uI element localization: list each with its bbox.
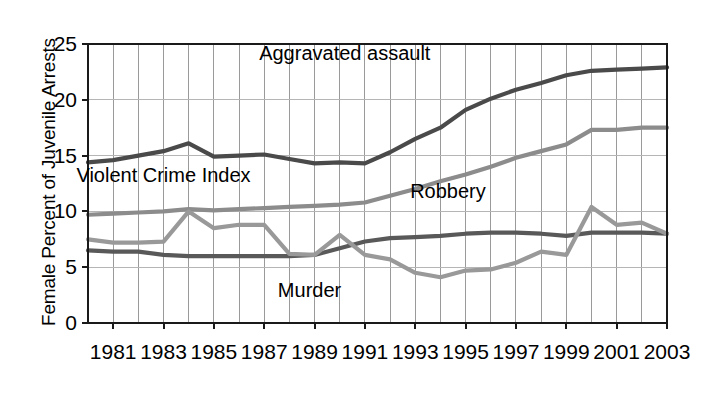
series-label-violent-crime-index: Violent Crime Index [76,164,250,186]
x-tick-label: 1983 [140,340,187,363]
x-tick-label: 1981 [90,340,137,363]
x-tick-label: 2001 [593,340,640,363]
x-tick-label: 1999 [543,340,590,363]
x-tick-label: 1991 [342,340,389,363]
x-tick-label: 1987 [241,340,288,363]
chart-figure: Female Percent of Juvenile Arrests 05101… [0,0,724,400]
x-tick-label: 1993 [392,340,439,363]
series-label-robbery: Robbery [410,180,486,202]
y-axis-title: Female Percent of Juvenile Arrests [34,32,64,332]
x-tick-label: 1989 [291,340,338,363]
line-chart-plot: 0510152025198119831985198719891991199319… [0,0,724,400]
y-tick-label: 5 [65,255,77,278]
y-tick-label: 0 [65,311,77,334]
series-label-aggravated-assault: Aggravated assault [259,42,431,64]
x-axis: 1981198319851987198919911993199519971999… [90,323,691,363]
x-tick-label: 2003 [644,340,691,363]
x-tick-label: 1985 [191,340,238,363]
x-tick-label: 1997 [493,340,540,363]
series-label-murder: Murder [278,279,342,301]
x-tick-label: 1995 [442,340,489,363]
